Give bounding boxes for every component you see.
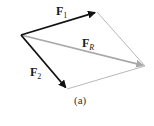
parallelogram-side-top [97,12,145,66]
parallelogram-side-bottom [67,66,145,89]
label-f2: F2 [30,65,41,81]
label-f1: F1 [56,4,67,20]
force-vector-f2 [21,35,66,88]
vector-diagram [0,0,154,126]
label-fr: FR [82,36,94,52]
caption: (a) [74,94,86,106]
